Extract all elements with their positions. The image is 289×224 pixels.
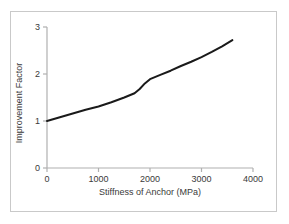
y-tick-label-3: 3 — [24, 22, 40, 32]
y-tick-label-1: 1 — [24, 116, 40, 126]
x-axis-title: Stiffness of Anchor (MPa) — [47, 187, 253, 197]
x-tick-label-4000: 4000 — [233, 174, 273, 184]
x-tick-label-2000: 2000 — [130, 174, 170, 184]
y-tick-label-0: 0 — [24, 163, 40, 173]
x-tick-label-3000: 3000 — [182, 174, 222, 184]
y-tick-label-2: 2 — [24, 69, 40, 79]
chart-figure: 3 2 1 0 0 1000 2000 3000 4000 Stiffness … — [0, 0, 289, 224]
x-tick-label-0: 0 — [27, 174, 67, 184]
data-series-line — [47, 40, 232, 121]
y-axis-title: Improvement Factor — [14, 53, 24, 153]
x-tick-label-1000: 1000 — [79, 174, 119, 184]
